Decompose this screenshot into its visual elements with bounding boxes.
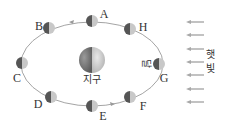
- moon-position-label-a: A: [100, 8, 109, 20]
- moon-g-icon: [153, 58, 165, 70]
- sunlight-arrow-icon: [186, 33, 204, 37]
- moon-position-label-g: G: [160, 72, 169, 84]
- moon-b-icon: [43, 22, 55, 34]
- moon-position-label-c: C: [13, 72, 21, 84]
- sunlight-arrow-icon: [186, 60, 204, 64]
- sunlight-arrow-icon: [186, 100, 204, 104]
- moon-d-icon: [45, 91, 57, 103]
- moon-position-label-h: H: [139, 21, 148, 33]
- moon-position-label-e: E: [99, 110, 106, 122]
- sunlight-label-2: 빛: [206, 64, 215, 74]
- sunlight-arrow-icon: [186, 73, 204, 77]
- moon-a-icon: [86, 15, 98, 27]
- moon-h-icon: [124, 23, 136, 35]
- sunlight-arrow-icon: [186, 20, 204, 24]
- moon-position-label-b: B: [35, 20, 43, 32]
- orbit-arrow-bottom: [110, 102, 115, 106]
- moon-position-label-d: D: [34, 98, 43, 110]
- sunlight-label-1: 햇: [206, 50, 215, 60]
- earth-label: 지구: [83, 75, 101, 85]
- moon-label: 달: [141, 59, 151, 68]
- moon-e-icon: [86, 100, 98, 112]
- moon-f-icon: [124, 91, 136, 103]
- sunlight-arrow-icon: [186, 47, 204, 51]
- moon-c-icon: [16, 57, 28, 69]
- moon-position-label-f: F: [140, 100, 147, 112]
- earth-icon: [79, 47, 105, 73]
- sunlight-arrow-icon: [186, 87, 204, 91]
